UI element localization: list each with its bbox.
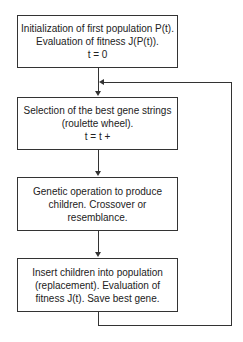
step-2-line-2: (roulette wheel). (62, 117, 134, 130)
loop-line-right (231, 82, 232, 326)
arrow-down-icon (95, 171, 101, 176)
step-2-line-1: Selection of the best gene strings (24, 104, 172, 117)
connector-2-3 (98, 150, 99, 172)
connector-3-4 (98, 231, 99, 253)
step-genetic-operation-box: Genetic operation to produce children. C… (17, 177, 178, 231)
arrow-left-icon (99, 79, 104, 85)
step-4-line-2: (replacement). Evaluation of (35, 279, 160, 292)
arrow-down-icon (95, 91, 101, 96)
step-4-line-1: Insert children into population (32, 266, 163, 279)
step-initialization-box: Initialization of first population P(t).… (17, 15, 178, 68)
arrow-down-icon (95, 252, 101, 257)
loop-line-bottom (98, 325, 232, 326)
step-4-line-3: fitness J(t). Save best gene. (36, 292, 160, 305)
step-3-line-1: Genetic operation to produce (33, 185, 162, 198)
step-1-line-2: Evaluation of fitness J(P(t)). (36, 35, 159, 48)
step-1-line-1: Initialization of first population P(t). (21, 22, 174, 35)
loop-line-top (103, 82, 232, 83)
step-selection-box: Selection of the best gene strings (roul… (17, 97, 178, 150)
loop-line-down (98, 312, 99, 325)
step-2-line-3: t = t + (85, 130, 111, 143)
step-1-line-3: t = 0 (88, 48, 108, 61)
step-insert-children-box: Insert children into population (replace… (17, 258, 178, 312)
step-3-line-3: resemblance. (67, 211, 127, 224)
step-3-line-2: children. Crossover or (49, 198, 147, 211)
